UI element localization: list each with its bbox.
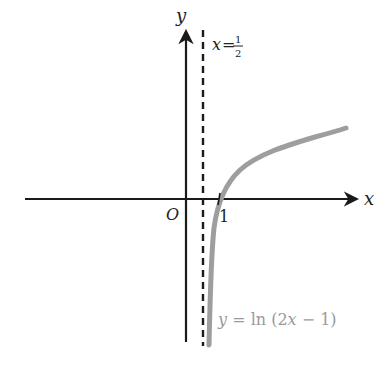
function-graph: y x O 1 x = 1 2 y = ln (2x − 1) xyxy=(0,0,384,365)
asymptote-den: 2 xyxy=(235,48,241,59)
svg-text:y = ln (2x − 1): y = ln (2x − 1) xyxy=(217,310,337,329)
x-intercept-label: 1 xyxy=(219,207,229,226)
asymptote-label: x = 1 2 xyxy=(212,34,243,59)
function-label-rhs: ln (2 xyxy=(251,310,288,329)
function-label-eq: = xyxy=(227,310,251,329)
asymptote-var: x xyxy=(212,35,221,54)
function-label: y = ln (2x − 1) xyxy=(217,310,337,329)
x-axis-label: x xyxy=(364,188,374,209)
origin-label: O xyxy=(166,205,179,224)
asymptote-eq: = xyxy=(222,35,235,54)
function-label-var: x xyxy=(288,310,297,329)
y-axis-label: y xyxy=(175,5,187,26)
function-label-tail: − 1) xyxy=(297,310,337,329)
asymptote-num: 1 xyxy=(235,34,241,45)
